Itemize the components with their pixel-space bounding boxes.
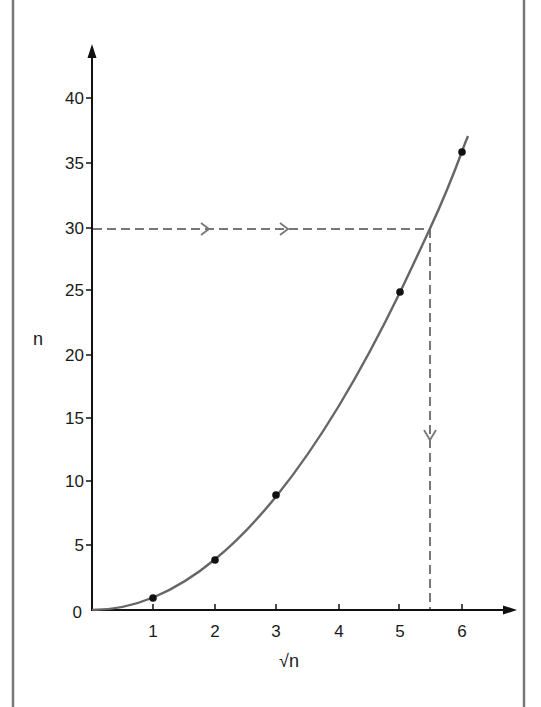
x-tick-label: 4	[334, 622, 343, 641]
y-tick-label: 30	[65, 219, 84, 238]
y-axis	[88, 44, 97, 611]
data-point	[272, 491, 280, 499]
x-tick-label: 6	[457, 622, 466, 641]
data-points	[149, 148, 466, 602]
y-tick-labels: 40 35 30 25 20 15 10 5 0	[65, 89, 84, 622]
y-tick-label: 10	[65, 472, 84, 491]
curve-n-equals-sqrt-n-squared	[92, 136, 468, 610]
y-axis-arrow-icon	[88, 44, 97, 58]
x-axis-title: √n	[279, 651, 299, 671]
x-tick-label: 3	[271, 622, 280, 641]
data-point	[396, 288, 404, 296]
x-tick-label: 1	[148, 622, 157, 641]
data-point	[211, 556, 219, 564]
data-point	[149, 594, 157, 602]
x-tick-label: 5	[395, 622, 404, 641]
chart-canvas: 40 35 30 25 20 15 10 5 0 1 2 3 4 5 6 n √…	[0, 0, 541, 707]
y-tick-label: 15	[65, 409, 84, 428]
y-tick-label: 0	[73, 603, 82, 622]
y-tick-label: 35	[65, 154, 84, 173]
y-axis-title: n	[33, 329, 43, 349]
y-tick-label: 20	[65, 346, 84, 365]
y-tick-label: 5	[75, 536, 84, 555]
y-tick-label: 40	[65, 89, 84, 108]
x-tick-label: 2	[210, 622, 219, 641]
x-axis-arrow-icon	[503, 606, 517, 615]
data-point	[458, 148, 466, 156]
guide-lines	[93, 223, 436, 609]
x-axis	[91, 606, 517, 615]
x-tick-labels: 1 2 3 4 5 6	[148, 622, 466, 641]
y-tick-label: 25	[65, 281, 84, 300]
